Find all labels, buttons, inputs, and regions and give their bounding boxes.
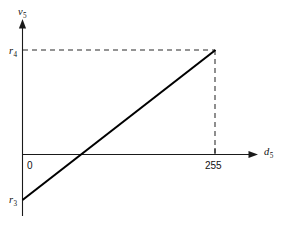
x-axis-tick-label-255: 255 — [205, 160, 222, 171]
line-chart-svg: v5 d5 r4 r3 0 255 — [0, 0, 291, 228]
data-series-line — [23, 50, 216, 200]
x-axis-label: d5 — [264, 146, 274, 160]
y-axis-tick-label-r3: r3 — [9, 194, 17, 208]
x-axis-label-sub: 5 — [270, 152, 274, 160]
figure-container: v5 d5 r4 r3 0 255 — [0, 0, 291, 228]
x-axis-arrow-icon — [249, 151, 259, 158]
y-axis-label-sub: 5 — [23, 12, 27, 20]
y-axis-tick-label-r4: r4 — [9, 45, 17, 59]
origin-label: 0 — [27, 160, 33, 171]
y-axis-arrow-icon — [19, 19, 26, 29]
y-axis-label: v5 — [18, 6, 27, 20]
r3-label-sub: 3 — [13, 200, 17, 208]
r4-label-sub: 4 — [13, 51, 17, 59]
